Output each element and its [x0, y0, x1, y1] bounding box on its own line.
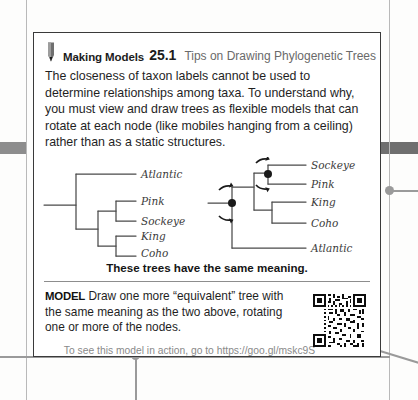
rotation-arrow-icon — [256, 157, 272, 192]
taxon-label: Pink — [140, 195, 165, 207]
taxon-label: Sockeye — [311, 159, 355, 171]
connector-line-right-lower — [380, 350, 418, 369]
taxon-label: Atlantic — [140, 168, 183, 180]
model-keyword: MODEL — [45, 290, 85, 302]
taxon-label: King — [310, 196, 336, 208]
card-header: Making Models 25.1 Tips on Drawing Phylo… — [34, 33, 380, 63]
card-header-subtitle: Tips on Drawing Phylogenetic Trees — [184, 49, 376, 63]
model-prompt: MODEL Draw one more “equivalent” tree wi… — [45, 289, 295, 336]
page-rule-right — [389, 0, 390, 400]
connector-line-bottom-vertical — [135, 356, 137, 400]
figure-trees: Atlantic Pink Sockeye King Coho — [34, 157, 380, 259]
phylogenetic-tree-right: Sockeye Pink King Coho Atlantic — [206, 157, 380, 257]
page-rule-left — [26, 0, 27, 400]
footer-link-note[interactable]: To see this model in action, go to https… — [45, 345, 334, 356]
taxon-label: Pink — [310, 178, 335, 190]
phylogenetic-tree-left: Atlantic Pink Sockeye King Coho — [36, 157, 208, 257]
section-divider — [44, 281, 370, 282]
taxon-label: Sockeye — [141, 215, 185, 227]
page-edge-bar-left — [0, 142, 26, 154]
taxon-label: Atlantic — [310, 242, 353, 254]
card-header-label: Making Models — [63, 51, 144, 63]
pencil-icon — [44, 42, 58, 62]
connector-line-right-middle — [393, 190, 418, 192]
figure-caption: These trees have the same meaning. — [34, 261, 380, 274]
page-root: Making Models 25.1 Tips on Drawing Phylo… — [0, 0, 418, 400]
card-header-number: 25.1 — [149, 47, 176, 63]
page-edge-bar-right — [376, 142, 418, 154]
taxon-label: Coho — [311, 217, 338, 229]
model-section: MODEL Draw one more “equivalent” tree wi… — [45, 289, 370, 336]
qr-code-icon[interactable] — [313, 294, 366, 347]
taxon-label: Coho — [141, 247, 168, 257]
making-models-card: Making Models 25.1 Tips on Drawing Phylo… — [33, 32, 381, 357]
taxon-label: King — [140, 230, 166, 242]
card-body-paragraph: The closeness of taxon labels cannot be … — [45, 68, 368, 151]
